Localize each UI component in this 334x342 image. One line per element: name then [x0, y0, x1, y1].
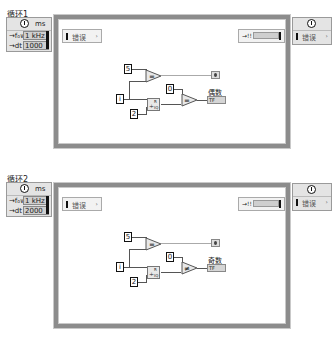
wire: [129, 81, 130, 99]
clock-icon: [20, 19, 29, 28]
right-node-field: [253, 200, 279, 207]
wire: [174, 257, 182, 258]
left-node-label: 错误: [72, 32, 86, 42]
iteration-terminal[interactable]: i: [116, 94, 124, 104]
wire: [161, 75, 211, 76]
not-equal-compare-node[interactable]: ≠: [181, 261, 199, 275]
svg-text:=: =: [184, 97, 190, 105]
wire: [124, 267, 148, 268]
node-bar: [46, 31, 49, 49]
output-error-node[interactable]: 错误 ›: [293, 196, 331, 209]
wire: [124, 99, 148, 100]
wire: [138, 282, 146, 283]
wire: [174, 89, 182, 90]
wire: [129, 249, 130, 267]
loop-2-timing-input-node[interactable]: ms →f₀w1 kHz →dt2000: [6, 182, 52, 217]
node-marker: [66, 201, 68, 208]
chevron-right-icon: ›: [326, 32, 328, 39]
node-marker: [66, 33, 68, 40]
wire: [132, 237, 146, 238]
wire: [132, 69, 146, 70]
svg-text:=: =: [149, 73, 155, 81]
loop-1-frame[interactable]: 错误 › →!! 5 i 2 0 = ÷ R IQ: [54, 15, 290, 148]
output-node-label: 错误: [302, 32, 316, 42]
timing-unit: ms: [35, 185, 45, 193]
even-boolean-indicator[interactable]: TF: [207, 96, 226, 104]
quotient-remainder-node[interactable]: ÷ R IQ: [147, 266, 160, 279]
node-bar: [46, 196, 49, 214]
remainder-label: R: [154, 99, 157, 104]
const-5[interactable]: 5: [124, 64, 132, 74]
dt-label: →dt: [9, 207, 22, 215]
quotient-remainder-node[interactable]: ÷ R IQ: [147, 98, 160, 111]
output-error-node[interactable]: 错误 ›: [293, 30, 331, 43]
const-0[interactable]: 0: [166, 252, 174, 262]
quotient-label: IQ: [154, 273, 158, 278]
right-node-label: →!!: [242, 32, 252, 39]
dt-label: →dt: [9, 42, 22, 50]
loop-2-right-data-node[interactable]: →!!: [238, 197, 285, 211]
loop-2-frame[interactable]: 错误 › →!! 5 i 2 0 = ÷ R IQ: [54, 183, 290, 328]
output-node-label: 错误: [302, 198, 316, 208]
loop-2-timing-output-node[interactable]: 错误 ›: [292, 183, 332, 211]
equal-compare-node[interactable]: =: [145, 69, 163, 83]
node-marker: [279, 32, 281, 40]
const-2[interactable]: 2: [130, 109, 138, 119]
svg-text:≠: ≠: [184, 265, 190, 273]
wire: [161, 104, 181, 105]
right-node-label: →!!: [242, 200, 252, 207]
loop-1-right-data-node[interactable]: →!!: [238, 29, 285, 43]
equal-compare-node-2[interactable]: =: [181, 93, 199, 107]
wire: [161, 243, 211, 244]
left-node-label: 错误: [72, 200, 86, 210]
stop-indicator-icon[interactable]: [211, 239, 220, 247]
stop-indicator-icon[interactable]: [211, 71, 220, 79]
chevron-right-icon: ›: [96, 32, 98, 39]
equal-compare-node[interactable]: =: [145, 237, 163, 251]
wire: [138, 114, 146, 115]
timing-unit: ms: [35, 20, 45, 28]
right-node-field: [253, 32, 279, 39]
quotient-label: IQ: [154, 105, 158, 110]
loop-1-timing-output-node[interactable]: 错误 ›: [292, 17, 332, 45]
svg-text:=: =: [149, 241, 155, 249]
remainder-label: R: [154, 267, 157, 272]
iteration-terminal[interactable]: i: [116, 262, 124, 272]
wire: [161, 272, 181, 273]
const-0[interactable]: 0: [166, 84, 174, 94]
chevron-right-icon: ›: [96, 200, 98, 207]
clock-icon: [307, 185, 316, 194]
const-5[interactable]: 5: [124, 232, 132, 242]
odd-boolean-indicator[interactable]: TF: [207, 264, 226, 272]
loop-1-left-data-node[interactable]: 错误 ›: [62, 29, 102, 43]
node-marker: [296, 199, 298, 206]
loop-2-left-data-node[interactable]: 错误 ›: [62, 197, 102, 211]
clock-icon: [307, 19, 316, 28]
node-marker: [296, 33, 298, 40]
clock-icon: [20, 184, 29, 193]
const-2[interactable]: 2: [130, 277, 138, 287]
node-marker: [279, 200, 281, 208]
chevron-right-icon: ›: [326, 198, 328, 205]
loop-1-timing-input-node[interactable]: ms →f₀w1 kHz →dt1000: [6, 17, 52, 52]
